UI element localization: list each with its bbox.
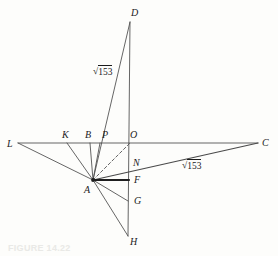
ray-A-L	[18, 143, 93, 180]
figure-canvas: DLKBPOCNAFGH √153√153 FIGURE 14.22	[0, 0, 278, 256]
point-label-P: P	[102, 130, 108, 140]
ray-A-K	[67, 143, 93, 180]
point-label-N: N	[133, 158, 140, 168]
point-label-F: F	[134, 175, 140, 185]
ray-A-B	[90, 143, 93, 180]
ray-A-H	[93, 180, 128, 236]
vertex-layer	[91, 178, 95, 182]
ray-A-D	[93, 22, 130, 180]
point-label-L: L	[7, 139, 13, 149]
point-label-D: D	[131, 8, 138, 18]
ray-A-C	[93, 143, 258, 180]
point-label-A: A	[84, 185, 90, 195]
vertex-dot-A	[91, 178, 95, 182]
geometry-svg	[0, 0, 278, 256]
length-AD: √153	[93, 67, 112, 77]
point-label-B: B	[85, 130, 91, 140]
ray-A-G	[93, 180, 128, 201]
figure-caption: FIGURE 14.22	[8, 243, 71, 253]
length-AC: √153	[182, 161, 201, 171]
point-label-O: O	[130, 130, 137, 140]
point-label-G: G	[134, 196, 141, 206]
point-label-K: K	[62, 130, 69, 140]
point-label-C: C	[262, 138, 269, 148]
point-label-H: H	[130, 237, 137, 247]
